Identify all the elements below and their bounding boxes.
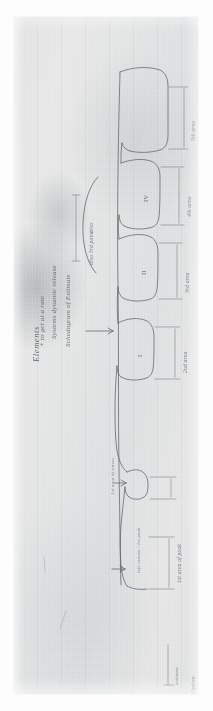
area-label-1st: 1st area of peak [176,544,182,583]
footer-caption: estimate [174,667,179,685]
peak-label-II: II [140,270,147,275]
area-label-3rd: 3rd area [184,272,190,293]
footer-signature: Option [190,676,196,693]
note-heading-continuation: + to get at a rate [38,296,46,347]
annotation-left-convex: left convex / 1st peak [136,528,141,573]
handdrawn-waveform [14,17,198,694]
annotation-first-area-waves: 1st area of waves [110,458,115,495]
area-label-5th: 5th area [190,121,196,141]
area-label-2nd: 2nd area [182,352,188,373]
peak-label-IV: IV [142,195,149,202]
brace-note-bottom: also [88,223,94,233]
brace-note-top: also 3rd point [88,231,94,265]
paper-sheet: Elements + to get at a rate Systems dyna… [14,17,198,694]
note-subheading: Systems dynamic release [50,265,58,339]
peak-label-I: I [136,355,143,357]
area-label-4th: 4th area [186,197,192,217]
screenshot-root: Elements + to get at a rate Systems dyna… [0,0,213,711]
note-left-label: Schedogram of Estimate [64,274,72,347]
